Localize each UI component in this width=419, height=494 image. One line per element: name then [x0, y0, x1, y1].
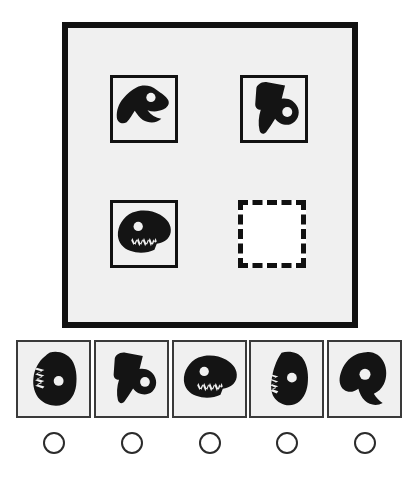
option-tile-3[interactable]	[172, 340, 247, 418]
radio-option-3[interactable]	[199, 432, 221, 454]
radio-option-4[interactable]	[276, 432, 298, 454]
matrix-cell-row1-col1	[110, 75, 178, 143]
matrix-grid	[68, 28, 352, 322]
option-tile-5[interactable]	[327, 340, 402, 418]
option-tile-1[interactable]	[16, 340, 91, 418]
option-tile-2[interactable]	[94, 340, 169, 418]
matrix-cell-row1-col2	[240, 75, 308, 143]
matrix-cell-row2-col1	[110, 200, 178, 268]
black-blob-two-pronged-downward-icon	[105, 350, 159, 408]
black-blob-two-pronged-downward-icon	[243, 78, 305, 140]
black-blob-dinosaur-head-right-icon	[113, 78, 175, 140]
option-tile-4[interactable]	[249, 340, 324, 418]
options-row	[0, 340, 419, 418]
black-blob-dinosaur-head-left-icon	[337, 350, 393, 408]
radio-option-5[interactable]	[354, 432, 376, 454]
radio-option-2[interactable]	[121, 432, 143, 454]
radio-option-1[interactable]	[43, 432, 65, 454]
black-blob-dinosaur-head-toothed-icon	[181, 354, 239, 404]
black-blob-toothed-left-eye-center-icon	[262, 350, 312, 408]
black-blob-dinosaur-head-toothed-icon	[113, 203, 175, 265]
black-blob-toothed-left-round-right-icon	[28, 350, 80, 408]
radio-row	[0, 432, 419, 472]
matrix-panel	[62, 22, 358, 328]
empty-answer-slot[interactable]	[238, 200, 306, 268]
